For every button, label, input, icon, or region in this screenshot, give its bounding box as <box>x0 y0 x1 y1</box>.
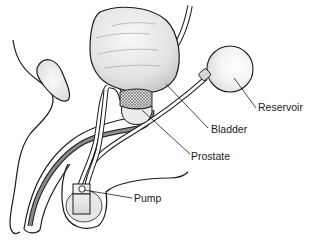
bladder <box>90 7 179 92</box>
bladder-label: Bladder <box>211 124 247 135</box>
pump <box>73 184 90 214</box>
reservoir <box>198 46 253 92</box>
pump-label: Pump <box>134 193 161 204</box>
pubic-bone <box>37 60 70 101</box>
reservoir-label: Reservoir <box>258 102 303 113</box>
prostate-label: Prostate <box>191 151 230 162</box>
diagram-illustration <box>0 0 313 246</box>
leader-lines <box>84 78 256 198</box>
anatomy-diagram: Reservoir Bladder Prostate Pump <box>0 0 313 246</box>
prostate-leader <box>142 110 190 154</box>
prostate <box>120 89 152 125</box>
